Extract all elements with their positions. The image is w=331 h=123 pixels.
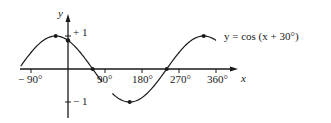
y-axis-label: y: [57, 7, 63, 19]
point-zero-240: [165, 67, 169, 71]
point-y-intercept: [66, 38, 70, 42]
tick-label-90: 90°: [97, 73, 112, 85]
plus-one-label: + 1: [73, 26, 87, 38]
point-zero-60: [91, 67, 95, 71]
y-axis-arrow-icon: [66, 14, 71, 22]
equation-label: y = cos (x + 30°): [224, 30, 299, 43]
tick-label-neg90: − 90°: [18, 73, 42, 85]
point-max-neg30: [54, 34, 58, 38]
cosine-chart: y + 1 − 1 − 90° 90° 180° 270° 360° x y =…: [0, 0, 331, 123]
tick-label-180: 180°: [132, 73, 153, 85]
minus-one-label: − 1: [73, 95, 87, 107]
tick-label-360: 360°: [207, 73, 228, 85]
x-axis-arrow-icon: [230, 67, 238, 72]
point-min-150: [128, 100, 132, 104]
tick-label-270: 270°: [170, 73, 191, 85]
x-axis-label: x: [240, 72, 246, 84]
point-max-330: [202, 34, 206, 38]
